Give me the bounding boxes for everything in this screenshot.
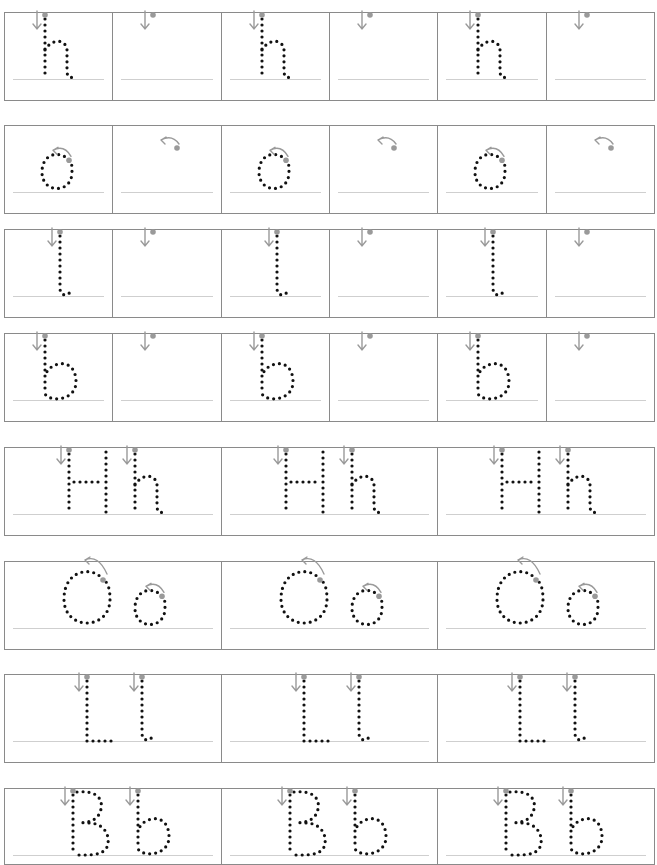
stroke-direction-arc-arrow-icon — [363, 583, 381, 592]
start-point-icon — [352, 788, 358, 794]
tracing-cell[interactable] — [438, 13, 546, 100]
tracing-cell[interactable] — [547, 334, 654, 421]
start-point-icon — [317, 577, 323, 583]
stroke-direction-down-arrow-icon — [466, 11, 474, 29]
stroke-direction-down-arrow-icon — [575, 228, 583, 246]
tracing-cell[interactable] — [113, 230, 221, 317]
stroke-direction-arc-arrow-icon — [161, 137, 179, 144]
start-point-icon — [259, 333, 265, 339]
start-point-icon — [491, 229, 497, 235]
stroke-direction-down-arrow-icon — [575, 332, 583, 350]
start-point-icon — [175, 145, 181, 151]
stroke-direction-down-arrow-icon — [575, 11, 583, 29]
stroke-direction-down-arrow-icon — [75, 673, 83, 691]
stroke-direction-down-arrow-icon — [347, 673, 355, 691]
stroke-direction-down-arrow-icon — [556, 446, 564, 464]
stroke-direction-down-arrow-icon — [274, 446, 282, 464]
start-point-icon — [283, 158, 289, 164]
tracing-cell[interactable] — [5, 126, 113, 213]
tracing-cell[interactable] — [438, 789, 654, 864]
stroke-direction-down-arrow-icon — [130, 673, 138, 691]
tracing-cell[interactable] — [547, 13, 654, 100]
tracing-cell[interactable] — [222, 562, 439, 649]
start-point-icon — [566, 447, 572, 453]
tracing-cell[interactable] — [5, 230, 113, 317]
tracing-cell[interactable] — [5, 448, 222, 535]
stroke-direction-down-arrow-icon — [33, 332, 41, 350]
start-point-icon — [42, 333, 48, 339]
start-point-icon — [584, 333, 590, 339]
pair-row-Bb — [4, 788, 655, 865]
start-point-icon — [500, 447, 506, 453]
tracing-cell[interactable] — [438, 448, 654, 535]
start-point-icon — [259, 12, 265, 18]
tracing-cell[interactable] — [113, 126, 221, 213]
tracing-cell[interactable] — [222, 334, 330, 421]
stroke-direction-down-arrow-icon — [563, 673, 571, 691]
start-point-icon — [534, 577, 540, 583]
tracing-cell[interactable] — [222, 126, 330, 213]
stroke-direction-down-arrow-icon — [126, 787, 134, 805]
tracing-cell[interactable] — [222, 789, 439, 864]
letter-row-o — [4, 125, 655, 214]
start-point-icon — [132, 447, 138, 453]
tracing-cell[interactable] — [5, 562, 222, 649]
tracing-cell[interactable] — [5, 334, 113, 421]
tracing-cell[interactable] — [222, 448, 439, 535]
start-point-icon — [573, 674, 579, 680]
start-point-icon — [84, 674, 90, 680]
start-point-icon — [608, 145, 614, 151]
stroke-direction-down-arrow-icon — [33, 11, 41, 29]
tracing-cell[interactable] — [113, 334, 221, 421]
stroke-direction-down-arrow-icon — [48, 228, 56, 246]
tracing-cell[interactable] — [438, 675, 654, 762]
tracing-cell[interactable] — [330, 334, 438, 421]
tracing-cell[interactable] — [330, 13, 438, 100]
stroke-direction-arc-arrow-icon — [595, 137, 613, 144]
stroke-direction-arc-arrow-icon — [486, 147, 504, 156]
stroke-direction-down-arrow-icon — [278, 787, 286, 805]
tracing-cell[interactable] — [222, 230, 330, 317]
stroke-direction-down-arrow-icon — [250, 332, 258, 350]
tracing-cell[interactable] — [438, 230, 546, 317]
start-point-icon — [518, 674, 524, 680]
stroke-direction-down-arrow-icon — [123, 446, 131, 464]
tracing-cell[interactable] — [5, 675, 222, 762]
tracing-cell[interactable] — [222, 13, 330, 100]
start-point-icon — [367, 229, 373, 235]
stroke-direction-down-arrow-icon — [141, 332, 149, 350]
start-point-icon — [584, 229, 590, 235]
letter-row-l — [4, 229, 655, 318]
tracing-cell[interactable] — [438, 562, 654, 649]
stroke-direction-down-arrow-icon — [57, 446, 65, 464]
letter-row-h — [4, 12, 655, 101]
start-point-icon — [376, 594, 382, 600]
start-point-icon — [57, 229, 63, 235]
tracing-cell[interactable] — [113, 13, 221, 100]
stroke-direction-arc-arrow-icon — [53, 147, 71, 156]
tracing-cell[interactable] — [438, 334, 546, 421]
tracing-cell[interactable] — [330, 230, 438, 317]
tracing-cell[interactable] — [330, 126, 438, 213]
pair-row-Ll — [4, 674, 655, 763]
tracing-cell[interactable] — [438, 126, 546, 213]
letter-row-b — [4, 333, 655, 422]
stroke-direction-down-arrow-icon — [559, 787, 567, 805]
pair-row-Oo — [4, 561, 655, 650]
tracing-cell[interactable] — [222, 675, 439, 762]
start-point-icon — [66, 447, 72, 453]
tracing-cell[interactable] — [5, 13, 113, 100]
start-point-icon — [476, 333, 482, 339]
start-point-icon — [301, 674, 307, 680]
tracing-cell[interactable] — [547, 230, 654, 317]
stroke-direction-down-arrow-icon — [250, 11, 258, 29]
stroke-direction-down-arrow-icon — [265, 228, 273, 246]
stroke-direction-down-arrow-icon — [358, 228, 366, 246]
tracing-cell[interactable] — [547, 126, 654, 213]
stroke-direction-down-arrow-icon — [141, 11, 149, 29]
stroke-direction-down-arrow-icon — [466, 332, 474, 350]
start-point-icon — [66, 158, 72, 164]
stroke-direction-arc-arrow-icon — [579, 583, 597, 592]
start-point-icon — [151, 12, 157, 18]
tracing-cell[interactable] — [5, 789, 222, 864]
